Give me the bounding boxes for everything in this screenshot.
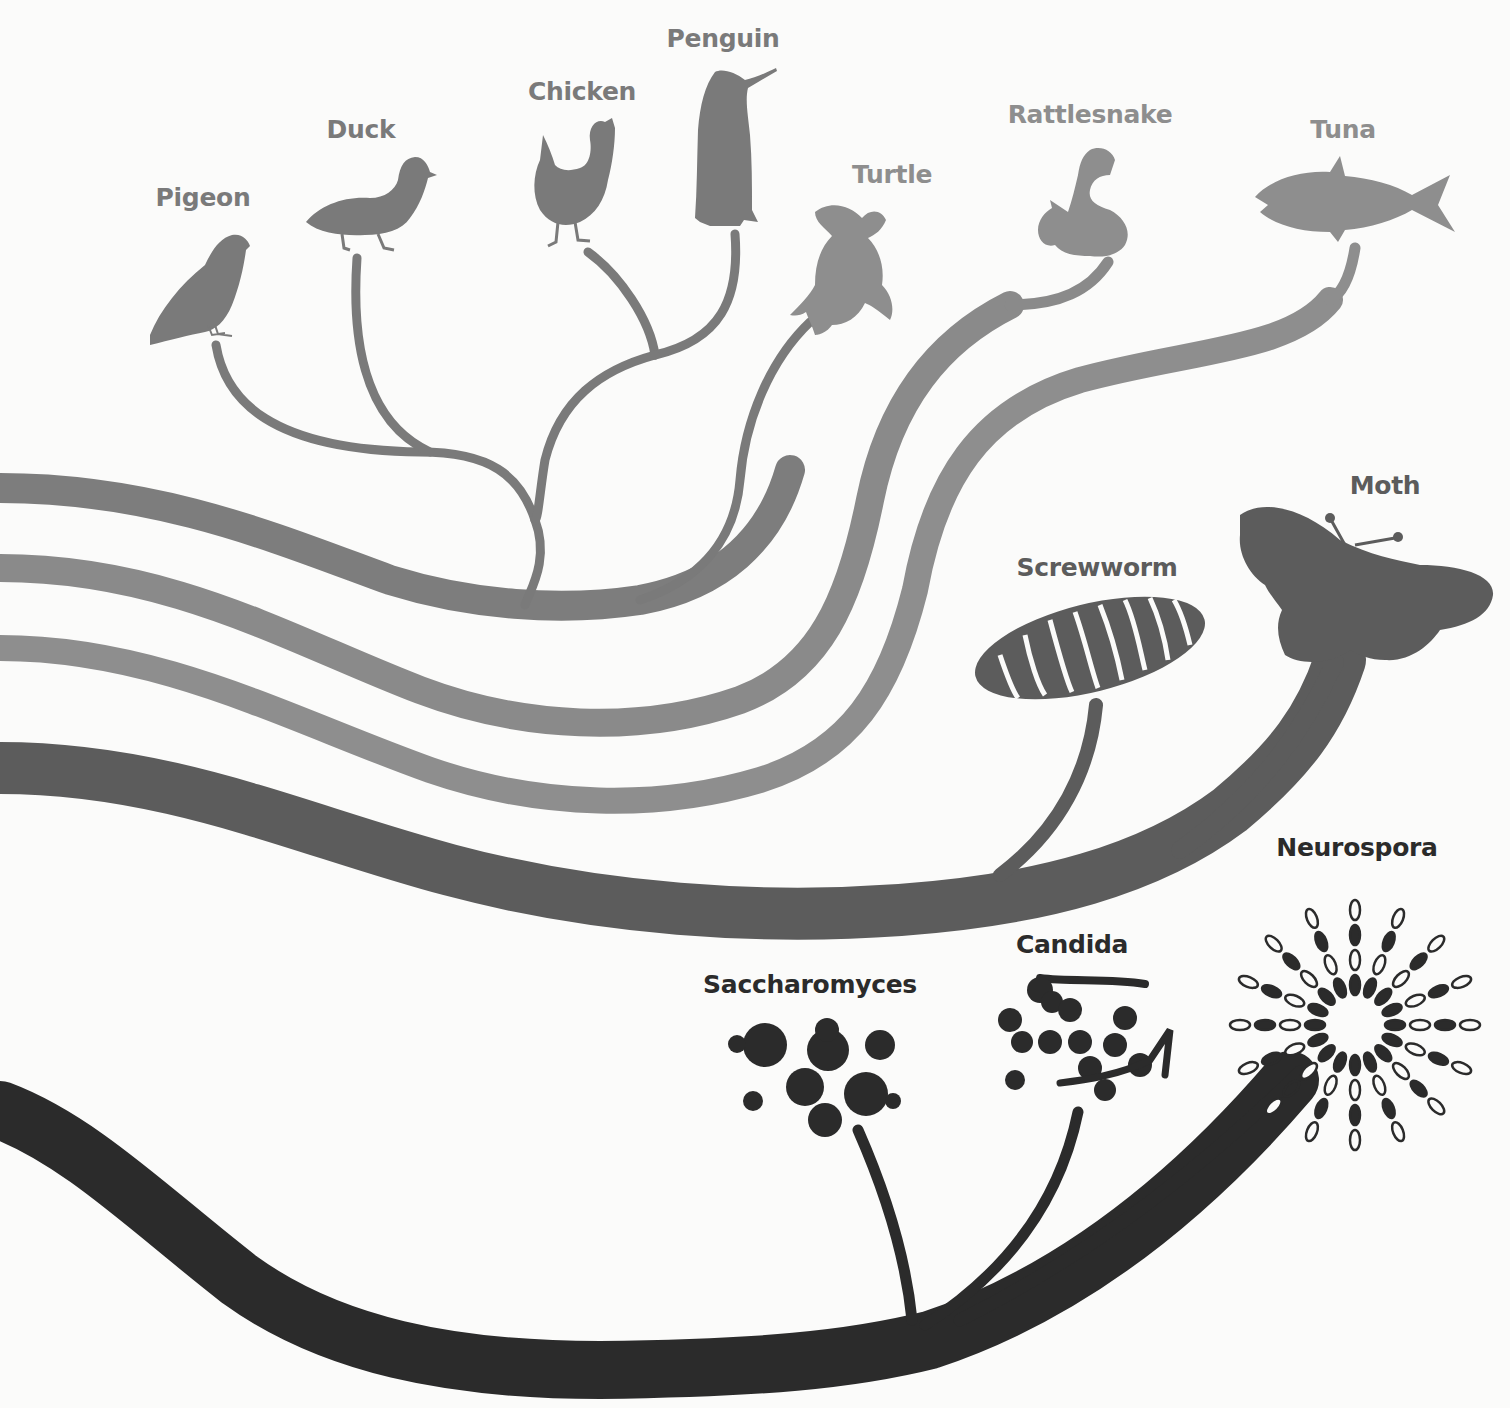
tuna-icon [1255, 156, 1455, 242]
rattlesnake-icon [1038, 148, 1128, 257]
candida-icon [998, 977, 1170, 1101]
label-candida: Candida [1016, 930, 1128, 959]
screwworm-icon [965, 577, 1215, 719]
label-moth: Moth [1350, 471, 1421, 500]
label-neurospora: Neurospora [1276, 833, 1437, 862]
turtle-icon [790, 205, 892, 335]
saccharomyces-icon [728, 1018, 901, 1137]
label-tuna: Tuna [1310, 115, 1376, 144]
penguin-icon [695, 68, 777, 226]
branch-fungi-trunk [0, 1080, 1290, 1370]
twig-saccharomyces [858, 1130, 912, 1320]
label-rattlesnake: Rattlesnake [1008, 100, 1173, 129]
label-screwworm: Screwworm [1016, 553, 1177, 582]
moth-icon [1240, 507, 1493, 662]
twig-rattlesnake [1010, 262, 1108, 305]
label-chicken: Chicken [528, 77, 636, 106]
twig-pigeon [216, 345, 535, 520]
chicken-icon [534, 118, 615, 246]
twig-tuna [1330, 248, 1355, 300]
label-saccharomyces: Saccharomyces [703, 970, 917, 999]
twig-screwworm [1000, 705, 1096, 875]
duck-icon [306, 157, 437, 250]
neurospora-icon [1230, 900, 1480, 1150]
label-duck: Duck [327, 115, 396, 144]
label-penguin: Penguin [666, 24, 779, 53]
pigeon-icon [150, 235, 250, 345]
twig-chicken [588, 252, 655, 355]
twig-galloanserae [535, 355, 655, 520]
twig-duck [356, 258, 430, 452]
twig-penguin [655, 234, 736, 355]
label-turtle: Turtle [852, 160, 932, 189]
label-pigeon: Pigeon [156, 183, 251, 212]
